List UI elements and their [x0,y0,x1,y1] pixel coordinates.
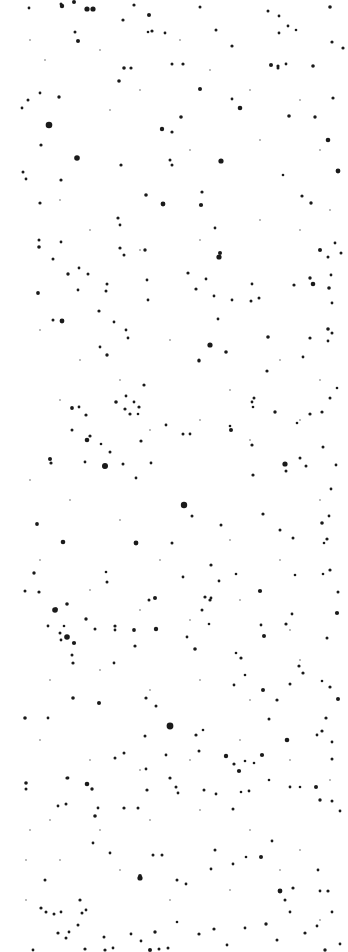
speck [182,576,185,579]
speck [198,87,202,91]
faint-speck [99,669,101,671]
speck [229,428,233,432]
faint-speck [149,689,151,691]
speck [123,407,126,410]
speck [193,647,197,651]
speck [336,387,339,390]
faint-speck [119,519,121,521]
speck [301,671,304,674]
speck [46,122,53,129]
speck [39,906,42,909]
speck [105,353,108,356]
speck [139,439,142,442]
faint-speck [289,759,291,761]
faint-speck [149,819,151,821]
speck [239,656,242,659]
speck [78,406,81,409]
speck [113,662,116,665]
speck [323,948,326,951]
speck [291,886,294,889]
speck [135,477,138,480]
speck [194,733,197,736]
speck [326,138,331,143]
speck [117,79,121,83]
speck [145,788,148,791]
speck [285,738,290,743]
speck [76,39,80,43]
speck [208,623,211,626]
speck [331,758,334,761]
speck [167,723,174,730]
speck [295,29,298,32]
faint-speck [289,629,291,631]
speck [119,163,122,166]
speck [334,242,337,245]
faint-speck [259,219,261,221]
speck [326,889,329,892]
speck [308,412,311,415]
speck [299,457,302,460]
speck [74,155,80,161]
speck [316,734,319,737]
faint-speck [89,759,91,761]
speck [320,729,323,732]
faint-speck [39,739,41,741]
speck [177,792,180,795]
speck [90,6,95,11]
speck [102,463,108,469]
speck [71,654,74,657]
speck [327,340,330,343]
speck [258,589,262,593]
speck [278,32,281,35]
speck [59,632,62,635]
speck [130,933,133,936]
faint-speck [179,39,181,41]
speck [134,541,139,546]
faint-speck [279,559,281,561]
speck [132,3,135,6]
speck [233,684,236,687]
speck [68,931,71,934]
speck [326,327,330,331]
speck [60,639,63,642]
speck [330,488,333,491]
speck [335,464,338,467]
speck [260,753,264,757]
speck [45,911,48,914]
speck [321,680,324,683]
faint-speck [79,359,81,361]
speck [203,595,206,598]
faint-speck [99,829,101,831]
faint-speck [229,389,231,391]
speck [94,628,97,631]
speck [70,406,74,410]
faint-speck [279,359,281,361]
speck [181,62,184,65]
speck [155,705,158,708]
speck [72,0,76,4]
speck [251,401,254,404]
speck [265,369,268,372]
speck [47,717,50,720]
faint-speck [239,599,241,601]
speck [215,29,218,32]
speck [128,412,131,415]
speck [165,754,168,757]
speck [279,529,282,532]
speck [116,216,119,219]
speck [210,597,213,600]
speck [198,750,201,753]
speck [318,798,321,801]
speck [99,346,102,349]
speck [123,254,126,257]
speck [278,15,281,18]
speck [285,63,288,66]
speck [253,397,256,400]
speck [153,596,157,600]
speck [171,542,174,545]
faint-speck [199,239,201,241]
faint-speck [209,69,211,71]
speck [215,793,218,796]
speck [309,201,312,204]
speck [267,10,270,13]
